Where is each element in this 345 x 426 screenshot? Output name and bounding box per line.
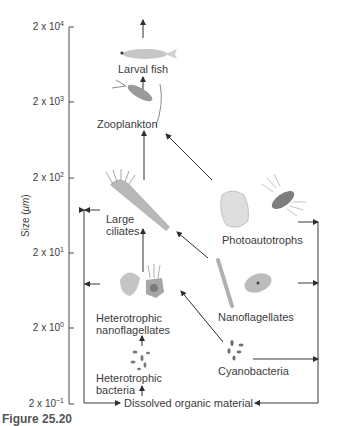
heterotrophic-nanoflagellates-icon [120,264,164,298]
tick-2e0: 2 x 100 [2,321,64,333]
cyanobacteria-icon [227,340,243,361]
trophic-arrows [142,20,223,396]
left-arrowheads [84,207,90,287]
label-larval-fish: Larval fish [118,63,168,75]
label-het-nanoflagellates-2: nanoflagellates [96,324,170,336]
tick-2e3: 2 x 103 [2,95,64,107]
tick-2e-1: 2 x 10−1 [2,397,64,409]
tick-2e1: 2 x 101 [2,246,64,258]
label-het-bacteria-1: Heterotrophic [96,372,162,384]
nanoflagellates-icon [218,260,274,306]
photoautotrophs-icon [221,174,306,227]
label-nanoflagellates: Nanoflagellates [218,311,294,323]
label-large-ciliates-2: ciliates [106,225,140,237]
size-axis [69,27,74,404]
label-cyanobacteria: Cyanobacteria [218,365,289,377]
heterotrophic-bacteria-icon [131,351,151,371]
label-dissolved-organic-material: Dissolved organic material [124,397,253,409]
label-large-ciliates-1: Large [106,213,134,225]
label-het-nanoflagellates-1: Heterotrophic [96,312,162,324]
label-het-bacteria-2: bacteria [96,384,135,396]
y-axis-label: Size (μm) [20,194,31,237]
figure-caption: Figure 25.20 [2,412,72,426]
larval-fish-icon [120,49,177,59]
label-zooplankton: Zooplankton [97,118,158,130]
tick-2e4: 2 x 104 [2,20,64,32]
tick-2e2: 2 x 102 [2,171,64,183]
label-photoautotrophs: Photoautotrophs [222,234,303,246]
